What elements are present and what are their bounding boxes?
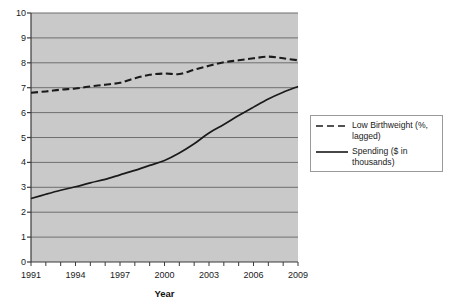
legend-label-low-birthweight: Low Birthweight (%, lagged) [352,120,437,141]
y-axis-tick-label: 6 [6,108,26,117]
x-axis-tick-label: 2006 [243,271,263,280]
legend-item: Spending ($ in thousands) [315,146,437,167]
y-axis-tick-label: 7 [6,83,26,92]
y-axis-tick-label: 4 [6,158,26,167]
legend-item: Low Birthweight (%, lagged) [315,120,437,141]
y-axis-tick-label: 9 [6,33,26,42]
y-axis-tick-label: 8 [6,58,26,67]
legend-dashed-line-icon [315,120,349,131]
y-axis-tick-label: 0 [6,258,26,267]
y-axis-tick-label: 5 [6,133,26,142]
legend-solid-line-icon [315,146,349,157]
x-axis-tick-label: 2003 [199,271,219,280]
x-axis-tick-label: 1997 [110,271,130,280]
x-axis-tick-label: 2009 [288,271,308,280]
y-axis-tick-label: 3 [6,183,26,192]
line-chart: 012345678910 199119941997200020032006200… [0,0,450,306]
legend-label-spending: Spending ($ in thousands) [352,146,437,167]
legend: Low Birthweight (%, lagged) Spending ($ … [310,115,443,172]
y-axis-tick-label: 1 [6,233,26,242]
x-axis-tick-label: 2000 [154,271,174,280]
x-axis-title: Year [154,288,174,299]
y-axis-tick-label: 10 [6,9,26,18]
x-axis-tick-label: 1991 [21,271,41,280]
y-axis-tick-label: 2 [6,208,26,217]
x-axis-tick-label: 1994 [65,271,85,280]
